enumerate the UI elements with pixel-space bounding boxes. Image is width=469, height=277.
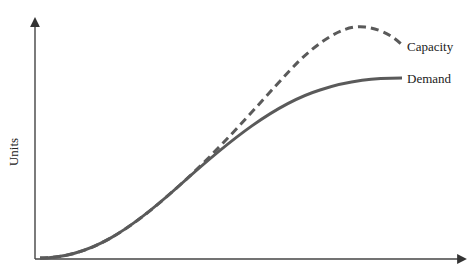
y-axis-label: Units [6,138,21,166]
demand-line [40,78,402,258]
capacity-label: Capacity [407,39,454,54]
capacity-line [40,27,402,258]
chart: Units Capacity Demand [0,0,469,277]
demand-label: Demand [407,71,452,86]
